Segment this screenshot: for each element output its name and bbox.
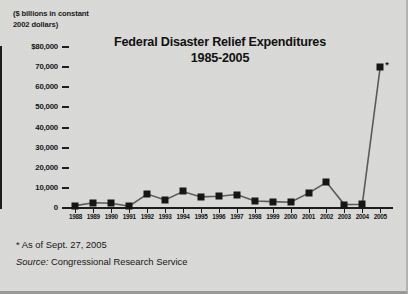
- y-axis-tick: [62, 207, 69, 209]
- data-point-marker: [72, 202, 79, 209]
- data-point-marker: [359, 201, 366, 208]
- data-point-marker: [269, 198, 276, 205]
- footnotes: * As of Sept. 27, 2005 Source: Congressi…: [16, 236, 187, 270]
- y-axis-tick-label: 0: [2, 203, 58, 212]
- x-axis-tick-label: 1994: [177, 213, 190, 220]
- y-axis-tick-label: $80,000: [2, 42, 58, 51]
- data-point-marker: [341, 201, 348, 208]
- footnote-source: Source: Congressional Research Service: [16, 253, 187, 270]
- data-point-marker: [90, 199, 97, 206]
- y-axis-tick: [62, 106, 69, 108]
- data-point-marker: [305, 190, 312, 197]
- y-axis-tick-label: 70,000: [2, 62, 58, 71]
- x-axis-tick-label: 1990: [105, 213, 118, 220]
- y-axis-tick: [62, 86, 69, 88]
- data-point-marker: [287, 199, 294, 206]
- y-axis-tick-label: 60,000: [2, 82, 58, 91]
- data-point-marker: [377, 64, 384, 71]
- data-point-marker: [126, 203, 133, 210]
- x-axis-tick-label: 1988: [69, 213, 82, 220]
- asterisk-annotation: *: [385, 60, 389, 70]
- x-axis-tick-label: 2001: [302, 213, 315, 220]
- y-axis-tick-label: 20,000: [2, 163, 58, 172]
- y-axis-tick: [62, 187, 69, 189]
- x-axis-tick-label: 1995: [194, 213, 207, 220]
- footnote-as-of: * As of Sept. 27, 2005: [16, 236, 187, 253]
- x-axis-tick-label: 2005: [374, 213, 387, 220]
- y-axis-tick: [62, 46, 69, 48]
- x-axis-tick-label: 1999: [266, 213, 279, 220]
- data-point-marker: [215, 193, 222, 200]
- y-axis-tick-label: 40,000: [2, 123, 58, 132]
- y-axis-tick-label: 10,000: [2, 183, 58, 192]
- data-point-marker: [197, 193, 204, 200]
- data-point-marker: [323, 179, 330, 186]
- data-point-marker: [144, 191, 151, 198]
- chart-title-line1: Federal Disaster Relief Expenditures: [114, 35, 326, 49]
- x-axis-tick-label: 2002: [320, 213, 333, 220]
- data-point-marker: [108, 200, 115, 207]
- x-axis-tick-label: 2004: [356, 213, 369, 220]
- data-point-marker: [233, 191, 240, 198]
- footnote-source-value: Congressional Research Service: [48, 256, 187, 267]
- chart-figure: ($ billions in constant 2002 dollars) Fe…: [0, 0, 408, 294]
- y-axis-tick: [62, 167, 69, 169]
- y-axis-tick: [62, 147, 69, 149]
- footnote-source-label: Source:: [16, 256, 48, 267]
- x-axis-tick-label: 1989: [87, 213, 100, 220]
- x-axis-tick-label: 1991: [123, 213, 136, 220]
- data-point-marker: [251, 197, 258, 204]
- x-axis-tick-label: 1993: [159, 213, 172, 220]
- chart-title: Federal Disaster Relief Expenditures 198…: [95, 34, 345, 66]
- x-axis-tick-label: 2000: [284, 213, 297, 220]
- x-axis-tick-label: 1992: [141, 213, 154, 220]
- data-point-marker: [162, 196, 169, 203]
- x-axis-tick-label: 1996: [212, 213, 225, 220]
- chart-title-line2: 1985-2005: [95, 50, 345, 66]
- y-axis-tick-label: 30,000: [2, 143, 58, 152]
- x-axis-tick-label: 2003: [338, 213, 351, 220]
- x-axis-tick-label: 1998: [248, 213, 261, 220]
- y-axis-tick: [62, 127, 69, 129]
- x-axis-tick-label: 1997: [230, 213, 243, 220]
- y-axis-tick-label: 50,000: [2, 102, 58, 111]
- y-axis-tick: [62, 66, 69, 68]
- data-point-marker: [180, 188, 187, 195]
